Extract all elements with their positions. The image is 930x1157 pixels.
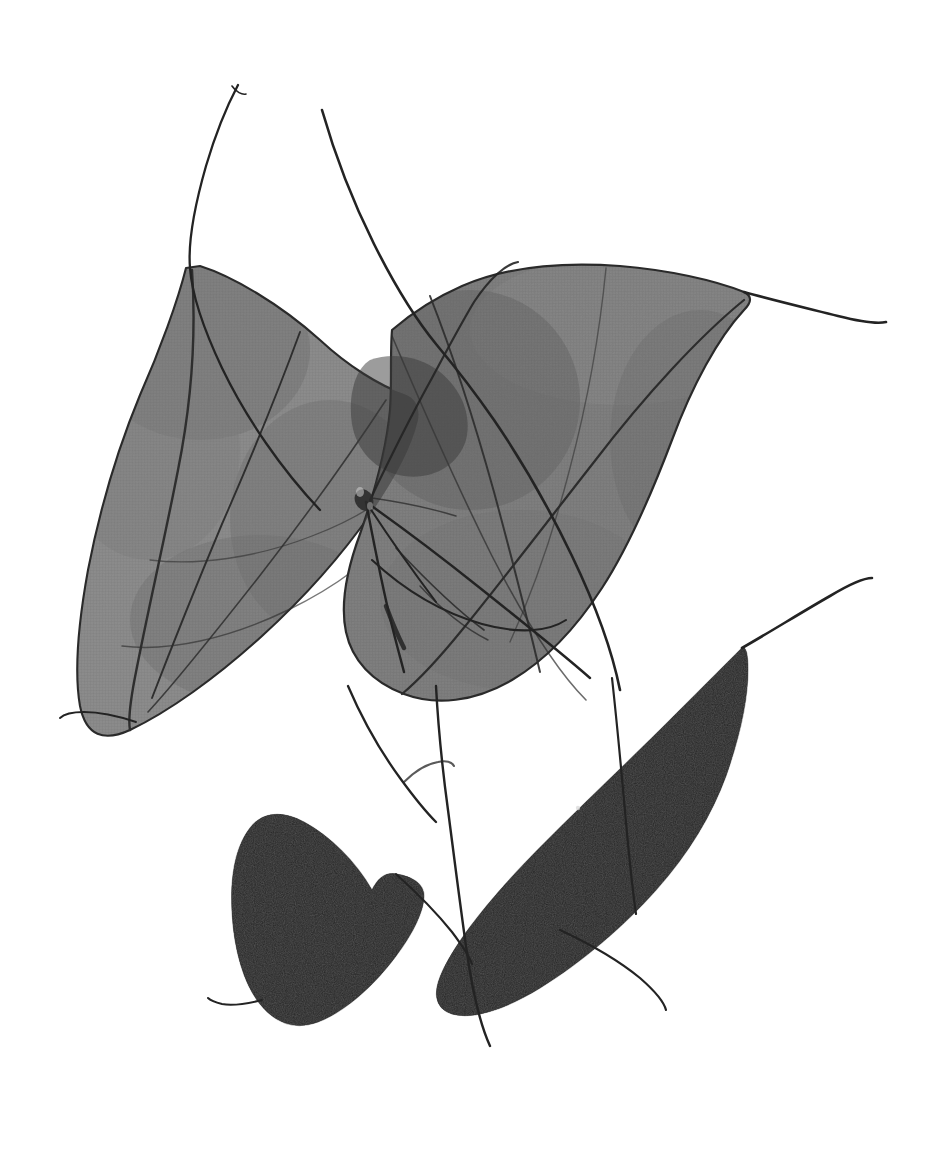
leaf-dark-large-speck	[576, 806, 580, 810]
artwork-frame: Pressed leaves on white background Two l…	[0, 0, 930, 1157]
leaves-composition	[0, 0, 930, 1157]
